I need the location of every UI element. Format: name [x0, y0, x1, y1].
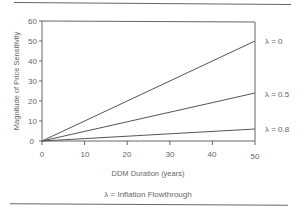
- y-tick-label: 20: [28, 97, 37, 106]
- line-chart: 60 50 40 30 20 10 0 0 10 20 30 40 50 λ =…: [0, 0, 301, 212]
- x-tick-label: 40: [208, 150, 217, 159]
- series-labels: λ = 0 λ = 0.5 λ = 0.8: [265, 37, 290, 134]
- x-axis-title: DDM Duration (years): [112, 169, 185, 178]
- y-tick-label: 30: [28, 77, 37, 86]
- plot-frame: [42, 21, 255, 141]
- x-tick-label: 30: [166, 150, 175, 159]
- y-tick-label: 50: [28, 37, 37, 46]
- series-line: [42, 41, 255, 141]
- series-line: [42, 129, 255, 141]
- series-label-lambda-0-5: λ = 0.5: [265, 90, 290, 99]
- y-axis-title: Magnitude of Price Sensitivity: [12, 32, 21, 131]
- series-line: [42, 93, 255, 141]
- y-tick-label: 40: [28, 57, 37, 66]
- series-lines: [42, 41, 255, 141]
- series-label-lambda-0: λ = 0: [265, 37, 283, 46]
- x-tick-labels: 0 10 20 30 40 50: [40, 150, 260, 161]
- x-ticks: [42, 141, 255, 145]
- y-tick-label: 10: [28, 117, 37, 126]
- series-label-lambda-0-8: λ = 0.8: [265, 125, 290, 134]
- x-tick-label: 10: [81, 150, 90, 159]
- y-tick-label: 60: [28, 17, 37, 26]
- y-tick-label: 0: [30, 137, 35, 146]
- x-tick-label: 0: [40, 150, 45, 159]
- x-tick-label: 50: [251, 152, 260, 161]
- y-tick-labels: 60 50 40 30 20 10 0: [28, 17, 37, 146]
- x-tick-label: 20: [123, 150, 132, 159]
- caption-inflation-flowthrough: λ = Inflation Flowthrough: [104, 190, 191, 199]
- top-border: [42, 21, 255, 22]
